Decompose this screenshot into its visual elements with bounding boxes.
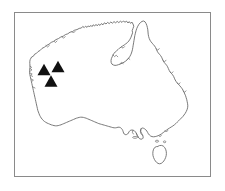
distribution-map-figure: Australia: [0, 0, 225, 191]
kangaroo-island: [133, 137, 138, 139]
australia-map-canvas: [0, 0, 225, 191]
